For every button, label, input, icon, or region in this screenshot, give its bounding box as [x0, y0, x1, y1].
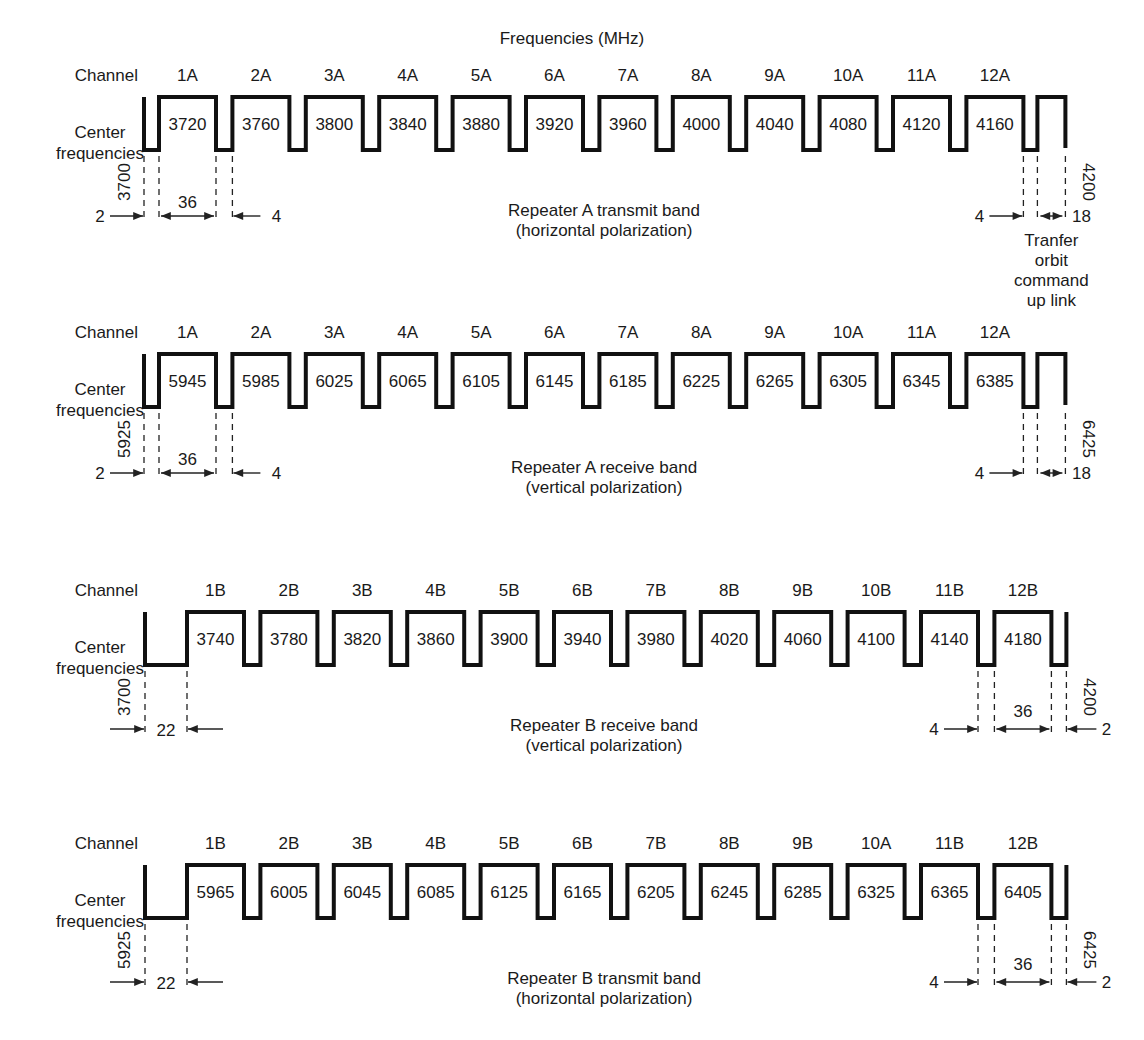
channel-label: 7B [646, 581, 667, 600]
channel-label: 10B [861, 581, 891, 600]
center-frequency-value: 3780 [270, 630, 308, 649]
center-frequency-value: 6265 [756, 372, 794, 391]
center-frequency-value: 4000 [682, 115, 720, 134]
channel-label: 5B [499, 581, 520, 600]
center-frequency-value: 3760 [242, 115, 280, 134]
band-caption: Repeater A receive band [511, 458, 697, 477]
center-frequency-value: 3940 [564, 630, 602, 649]
band-start-frequency: 5925 [115, 931, 134, 969]
band-end-frequency: 4200 [1079, 163, 1098, 201]
command-uplink-note: orbit [1035, 251, 1068, 270]
channel-label: 10A [861, 834, 892, 853]
channel-label: 12A [980, 66, 1011, 85]
channel-label: 11B [935, 581, 964, 600]
band-polarization: (vertical polarization) [526, 478, 683, 497]
center-frequency-value: 4080 [829, 115, 867, 134]
channel-label: 8A [691, 66, 712, 85]
band-polarization: (vertical polarization) [526, 736, 683, 755]
center-frequency-value: 3860 [417, 630, 455, 649]
center-frequency-value: 6225 [682, 372, 720, 391]
command-uplink-note: up link [1027, 291, 1077, 310]
center-frequency-value: 6065 [389, 372, 427, 391]
channel-label: 4A [397, 66, 418, 85]
channel-label: 5A [471, 323, 492, 342]
channel-label: 2B [279, 581, 300, 600]
center-frequency-value: 6245 [710, 883, 748, 902]
band-end-frequency: 6425 [1079, 420, 1098, 458]
channel-label: 8B [719, 834, 740, 853]
left-guard-width: 22 [157, 974, 176, 993]
band-repeater-b-transmit: ChannelCenterfrequencies1B59652B60053B60… [56, 834, 1111, 1008]
channel-bandwidth: 36 [1013, 955, 1032, 974]
channel-label: 5B [499, 834, 520, 853]
right-guard-width: 2 [1102, 720, 1111, 739]
channel-label: 9B [792, 581, 813, 600]
center-frequency-value: 4060 [784, 630, 822, 649]
band-repeater-a-receive: ChannelCenterfrequencies1A59452A59853A60… [56, 323, 1098, 497]
center-frequency-value: 6405 [1004, 883, 1042, 902]
channel-row-label: Channel [75, 323, 138, 342]
channel-label: 3B [352, 834, 373, 853]
center-frequency-value: 6325 [857, 883, 895, 902]
center-frequencies-label: frequencies [56, 659, 144, 678]
center-frequency-value: 4180 [1004, 630, 1042, 649]
center-frequency-value: 6305 [829, 372, 867, 391]
center-frequency-value: 3820 [343, 630, 381, 649]
band-polarization: (horizontal polarization) [516, 989, 693, 1008]
center-frequency-value: 6125 [490, 883, 528, 902]
channel-label: 9A [764, 66, 785, 85]
center-frequencies-label: Center [74, 638, 125, 657]
guard-gap-width: 4 [975, 207, 984, 226]
channel-label: 10A [833, 323, 864, 342]
channel-label: 4B [425, 834, 446, 853]
center-frequency-value: 3880 [462, 115, 500, 134]
center-frequency-value: 3800 [315, 115, 353, 134]
channel-label: 5A [471, 66, 492, 85]
channel-label: 11B [935, 834, 964, 853]
channel-row-label: Channel [75, 581, 138, 600]
frequency-plan-diagram: Frequencies (MHz) ChannelCenterfrequenci… [0, 0, 1144, 1040]
channel-gap-width: 4 [272, 207, 281, 226]
channel-label: 4B [425, 581, 446, 600]
channel-label: 7A [618, 66, 639, 85]
center-frequency-value: 6005 [270, 883, 308, 902]
center-frequency-value: 4160 [976, 115, 1014, 134]
channel-label: 6A [544, 66, 565, 85]
channel-label: 1B [205, 834, 226, 853]
channel-label: 11A [907, 66, 937, 85]
center-frequency-value: 6165 [564, 883, 602, 902]
band-end-frequency: 4200 [1080, 678, 1099, 716]
center-frequency-value: 6105 [462, 372, 500, 391]
channel-bandwidth: 36 [178, 193, 197, 212]
center-frequency-value: 6285 [784, 883, 822, 902]
right-guard-width: 2 [1102, 973, 1111, 992]
center-frequency-value: 3920 [536, 115, 574, 134]
channel-bandwidth: 36 [1013, 702, 1032, 721]
band-repeater-a-transmit: ChannelCenterfrequencies1A37202A37603A38… [56, 66, 1098, 310]
channel-label: 7A [618, 323, 639, 342]
center-frequency-value: 3740 [197, 630, 235, 649]
channel-label: 7B [646, 834, 667, 853]
center-frequency-value: 3900 [490, 630, 528, 649]
center-frequency-value: 3960 [609, 115, 647, 134]
channel-label: 1B [205, 581, 226, 600]
channel-label: 11A [907, 323, 937, 342]
center-frequency-value: 4140 [931, 630, 969, 649]
diagram-title: Frequencies (MHz) [500, 29, 645, 48]
band-end-frequency: 6425 [1080, 931, 1099, 969]
guard-gap-width: 4 [975, 464, 984, 483]
command-uplink-note: command [1014, 271, 1089, 290]
left-guard-width: 22 [157, 721, 176, 740]
center-frequency-value: 3980 [637, 630, 675, 649]
center-frequency-value: 6045 [343, 883, 381, 902]
left-guard-width: 2 [95, 207, 104, 226]
band-start-frequency: 3700 [115, 678, 134, 716]
command-channel-width: 18 [1072, 207, 1091, 226]
channel-label: 12A [980, 323, 1011, 342]
center-frequency-value: 6145 [536, 372, 574, 391]
channel-label: 6B [572, 834, 593, 853]
command-channel-width: 18 [1072, 464, 1091, 483]
center-frequencies-label: Center [74, 380, 125, 399]
center-frequency-value: 6365 [931, 883, 969, 902]
center-frequencies-label: frequencies [56, 912, 144, 931]
